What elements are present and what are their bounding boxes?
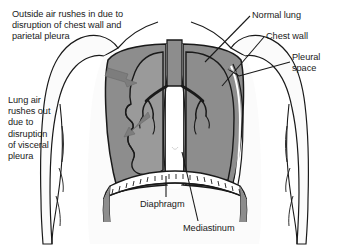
arm-detail-right-3: [289, 196, 293, 226]
label-diaphragm: Diaphragm: [140, 199, 185, 210]
label-normal-lung: Normal lung: [252, 10, 301, 21]
illustration-root: Outside air rushes in due to disruption …: [0, 0, 349, 247]
label-pleural-space: Pleural space: [292, 52, 320, 74]
note-outside-air-rushes-in: Outside air rushes in due to disruption …: [12, 9, 123, 43]
label-mediastinum: Mediastinum: [183, 223, 235, 234]
arm-detail-left-3: [56, 196, 60, 226]
trachea: [167, 40, 182, 86]
note-lung-air-rushes-out: Lung air rushes out due to disruption of…: [8, 95, 50, 162]
label-chest-wall: Chest wall: [266, 31, 308, 42]
